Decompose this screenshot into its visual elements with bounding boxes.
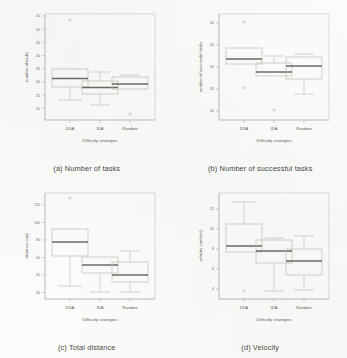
- panel-b-xtick-dda: DDA: [239, 126, 248, 131]
- panel-d-velocity: 12 10 8 6 4 velocity (cm/sec): [174, 179, 347, 358]
- panel-a-outlier-dda: [69, 19, 71, 21]
- panel-a-x-axis-title: Difficulty strategies: [82, 138, 117, 143]
- panel-d-ytick-4: 4: [212, 287, 214, 291]
- panel-d-x-axis-title: Difficulty strategies: [256, 317, 291, 322]
- panel-c-x-axis-title: Difficulty strategies: [82, 317, 117, 322]
- panel-a-y-axis-title: number of tasks: [24, 52, 29, 82]
- panel-c-ytick-100: 100: [34, 221, 40, 225]
- panel-a-number-of-tasks: 55 50 45 40 35 30 25 20 num: [0, 0, 174, 179]
- panel-b-x-axis-title: Difficulty strategies: [256, 138, 291, 143]
- panel-b-plot-area: 50 40 30 20 10 number of successful task…: [174, 0, 347, 179]
- panel-d-plot-area: 12 10 8 6 4 velocity (cm/sec): [174, 179, 347, 358]
- panel-c-ytick-40: 40: [36, 273, 40, 277]
- panel-a-xtick-ida: IDA: [97, 126, 104, 131]
- panel-b-ytick-20: 20: [210, 87, 214, 91]
- panel-b-outlier-dda-high: [242, 21, 244, 23]
- panel-d-ytick-10: 10: [210, 227, 214, 231]
- panel-a-ytick-25: 25: [36, 94, 40, 98]
- panel-b-outlier-dda-low: [242, 87, 244, 89]
- panel-d-y-ticks: 12 10 8 6 4: [210, 207, 219, 291]
- figure-panel-grid: 55 50 45 40 35 30 25 20 num: [0, 0, 347, 358]
- panel-b-y-axis-title: number of successful tasks: [198, 42, 203, 93]
- panel-d-ytick-12: 12: [210, 207, 214, 211]
- panel-d-y-axis-title: velocity (cm/sec): [198, 230, 203, 262]
- panel-b-xtick-random: Random: [296, 126, 312, 131]
- panel-c-xtick-dda: DDA: [66, 305, 75, 310]
- panel-d-ytick-6: 6: [212, 267, 214, 271]
- panel-c-ytick-120: 120: [34, 203, 40, 207]
- panel-c-y-ticks: 120 100 80 60 40 20: [34, 203, 45, 295]
- panel-a-caption: (a) Number of tasks: [0, 164, 174, 173]
- panel-b-ytick-50: 50: [210, 21, 214, 25]
- panel-d-xtick-dda: DDA: [239, 305, 248, 310]
- panel-d-caption: (d) Velocity: [174, 343, 347, 352]
- panel-a-xtick-random: Random: [122, 126, 138, 131]
- panel-b-ytick-40: 40: [210, 43, 214, 47]
- panel-c-caption: (c) Total distance: [0, 343, 174, 352]
- panel-b-box-random: [286, 54, 322, 94]
- panel-b-y-ticks: 50 40 30 20 10: [210, 21, 219, 113]
- panel-a-ytick-45: 45: [36, 41, 40, 45]
- panel-a-ytick-30: 30: [36, 80, 40, 84]
- panel-a-outlier-random: [129, 113, 131, 115]
- panel-d-xtick-ida: IDA: [270, 305, 277, 310]
- panel-d-svg: 12 10 8 6 4 velocity (cm/sec): [174, 179, 347, 331]
- panel-b-box-dda: [226, 21, 262, 89]
- panel-b-ytick-10: 10: [210, 109, 214, 113]
- panel-a-ytick-20: 20: [36, 107, 40, 111]
- panel-c-y-axis-title: distance (cm): [24, 233, 29, 259]
- panel-a-ytick-55: 55: [36, 14, 40, 18]
- panel-c-xtick-random: Random: [122, 305, 138, 310]
- panel-a-ytick-50: 50: [36, 28, 40, 32]
- panel-c-xtick-ida: IDA: [97, 305, 104, 310]
- panel-b-svg: 50 40 30 20 10 number of successful task…: [174, 0, 347, 152]
- panel-a-y-ticks: 55 50 45 40 35 30 25 20: [36, 14, 45, 110]
- panel-b-xtick-ida: IDA: [270, 126, 277, 131]
- panel-d-xtick-random: Random: [296, 305, 312, 310]
- panel-d-box-dda: [226, 202, 262, 292]
- panel-a-ytick-35: 35: [36, 67, 40, 71]
- panel-c-plot-area: 120 100 80 60 40 20 distance (cm): [0, 179, 174, 358]
- panel-c-svg: 120 100 80 60 40 20 distance (cm): [0, 179, 174, 331]
- panel-c-ytick-80: 80: [36, 238, 40, 242]
- panel-c-outlier-dda: [69, 197, 71, 199]
- panel-c-ytick-20: 20: [36, 291, 40, 295]
- panel-d-ytick-8: 8: [212, 247, 214, 251]
- panel-a-svg: 55 50 45 40 35 30 25 20 num: [0, 0, 174, 152]
- panel-b-number-of-successful-tasks: 50 40 30 20 10 number of successful task…: [174, 0, 347, 179]
- panel-a-ytick-40: 40: [36, 54, 40, 58]
- panel-b-ytick-30: 30: [210, 65, 214, 69]
- panel-b-outlier-ida: [272, 109, 274, 111]
- panel-d-outlier-dda: [242, 290, 244, 292]
- panel-a-xtick-dda: DDA: [66, 126, 75, 131]
- panel-b-caption: (b) Number of successful tasks: [174, 164, 347, 173]
- panel-a-plot-area: 55 50 45 40 35 30 25 20 num: [0, 0, 174, 179]
- panel-c-total-distance: 120 100 80 60 40 20 distance (cm): [0, 179, 174, 358]
- panel-c-ytick-60: 60: [36, 256, 40, 260]
